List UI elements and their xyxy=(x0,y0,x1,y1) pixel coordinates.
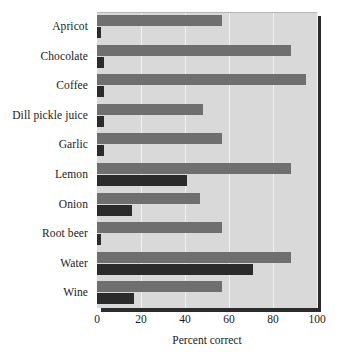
bar-group xyxy=(97,133,317,163)
y-axis-tick-label: Dill pickle juice xyxy=(12,110,88,122)
y-axis-category-labels: Apricot Chocolate Coffee Dill pickle jui… xyxy=(0,12,94,308)
plot-frame-top-edge xyxy=(97,12,317,13)
x-axis-tick-label: 60 xyxy=(223,314,235,326)
bar-group xyxy=(97,74,317,104)
bar-group xyxy=(97,193,317,223)
x-axis-tick-label: 100 xyxy=(308,314,325,326)
bar-group xyxy=(97,222,317,252)
bar-group xyxy=(97,104,317,134)
bar xyxy=(97,175,187,186)
bar xyxy=(97,163,291,174)
y-axis-tick-onion: Onion xyxy=(0,190,94,220)
y-axis-tick-label: Onion xyxy=(59,199,88,211)
y-axis-tick-label: Chocolate xyxy=(40,51,88,63)
bar xyxy=(97,234,101,245)
bar xyxy=(97,293,134,304)
x-axis-tick-label: 40 xyxy=(179,314,191,326)
bars-layer xyxy=(97,12,317,308)
bar xyxy=(97,15,222,26)
bar xyxy=(97,74,306,85)
bar-group xyxy=(97,252,317,282)
bar xyxy=(97,145,104,156)
y-axis-tick-wine: Wine xyxy=(0,278,94,308)
y-axis-tick-chocolate: Chocolate xyxy=(0,42,94,72)
bar xyxy=(97,116,104,127)
y-axis-tick-water: Water xyxy=(0,249,94,279)
bar xyxy=(97,104,203,115)
y-axis-tick-root-beer: Root beer xyxy=(0,219,94,249)
y-axis-tick-label: Root beer xyxy=(42,228,88,240)
bar xyxy=(97,45,291,56)
bar-group xyxy=(97,163,317,193)
y-axis-tick-label: Apricot xyxy=(52,21,88,33)
bar xyxy=(97,193,200,204)
bar-group xyxy=(97,45,317,75)
y-axis-tick-label: Garlic xyxy=(59,139,88,151)
y-axis-tick-label: Water xyxy=(60,258,88,270)
bar xyxy=(97,27,101,38)
y-axis-tick-label: Coffee xyxy=(56,80,88,92)
y-axis-tick-label: Lemon xyxy=(55,169,88,181)
bar xyxy=(97,281,222,292)
y-axis-tick-dill-pickle-juice: Dill pickle juice xyxy=(0,101,94,131)
bar-group xyxy=(97,281,317,311)
bar xyxy=(97,205,132,216)
y-axis-tick-lemon: Lemon xyxy=(0,160,94,190)
x-axis-tick-label: 20 xyxy=(135,314,147,326)
plot-area xyxy=(97,12,317,308)
x-axis-tick-label: 0 xyxy=(94,314,100,326)
x-axis-tick-label: 80 xyxy=(267,314,279,326)
gridline-100 xyxy=(317,12,318,308)
bar xyxy=(97,222,222,233)
x-axis-title: Percent correct xyxy=(97,335,317,347)
bar-group xyxy=(97,15,317,45)
y-axis-tick-coffee: Coffee xyxy=(0,71,94,101)
x-axis-tick-labels: 020406080100 xyxy=(97,314,317,330)
bar xyxy=(97,264,253,275)
bar xyxy=(97,252,291,263)
horizontal-bar-chart: Apricot Chocolate Coffee Dill pickle jui… xyxy=(0,0,337,359)
bar xyxy=(97,133,222,144)
y-axis-tick-garlic: Garlic xyxy=(0,130,94,160)
y-axis-tick-apricot: Apricot xyxy=(0,12,94,42)
bar xyxy=(97,57,104,68)
bar xyxy=(97,86,104,97)
y-axis-tick-label: Wine xyxy=(63,287,88,299)
